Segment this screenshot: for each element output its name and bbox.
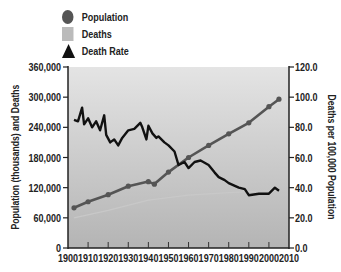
population-marker bbox=[246, 120, 251, 125]
right-tick-label: 40.0 bbox=[295, 182, 313, 194]
x-tick-label: 1950 bbox=[158, 252, 178, 264]
x-tick-label: 2010 bbox=[279, 252, 299, 264]
left-tick-label: 60,000 bbox=[33, 212, 61, 224]
x-tick-label: 1920 bbox=[98, 252, 118, 264]
population-marker bbox=[166, 169, 171, 174]
right-tick-label: 80.0 bbox=[295, 121, 313, 133]
left-tick-label: 120,000 bbox=[28, 182, 61, 194]
population-marker bbox=[71, 205, 76, 210]
x-tick-label: 1990 bbox=[239, 252, 259, 264]
x-tick-label: 1930 bbox=[118, 252, 138, 264]
right-tick-label: 100.0 bbox=[295, 91, 318, 103]
right-tick-label: 60.0 bbox=[295, 152, 313, 164]
x-tick-label: 1910 bbox=[78, 252, 98, 264]
left-tick-label: 300,000 bbox=[28, 91, 61, 103]
population-marker bbox=[126, 184, 131, 189]
x-tick-label: 2000 bbox=[259, 252, 279, 264]
x-tick-label: 1970 bbox=[199, 252, 219, 264]
population-marker bbox=[152, 182, 157, 187]
left-tick-label: 180,000 bbox=[28, 152, 61, 164]
left-axis-title: Population (thousands) and Deaths bbox=[9, 85, 21, 230]
right-axis-title: Deaths per 100,000 Population bbox=[326, 95, 338, 220]
population-marker bbox=[85, 199, 90, 204]
population-marker bbox=[276, 97, 281, 102]
right-tick-label: 120.0 bbox=[295, 61, 318, 73]
plot-area bbox=[68, 67, 289, 248]
x-tick-label: 1900 bbox=[58, 252, 78, 264]
x-tick-label: 1960 bbox=[179, 252, 199, 264]
population-marker bbox=[226, 131, 231, 136]
right-tick-label: 20.0 bbox=[295, 212, 313, 224]
x-tick-label: 1980 bbox=[219, 252, 239, 264]
left-tick-label: 240,000 bbox=[28, 121, 61, 133]
population-marker bbox=[206, 143, 211, 148]
chart-canvas: 060,000120,000180,000240,000300,000360,0… bbox=[0, 0, 341, 272]
population-marker bbox=[106, 192, 111, 197]
left-tick-label: 360,000 bbox=[28, 61, 61, 73]
x-tick-label: 1940 bbox=[138, 252, 158, 264]
population-marker bbox=[186, 155, 191, 160]
population-marker bbox=[266, 104, 271, 109]
population-marker bbox=[146, 179, 151, 184]
